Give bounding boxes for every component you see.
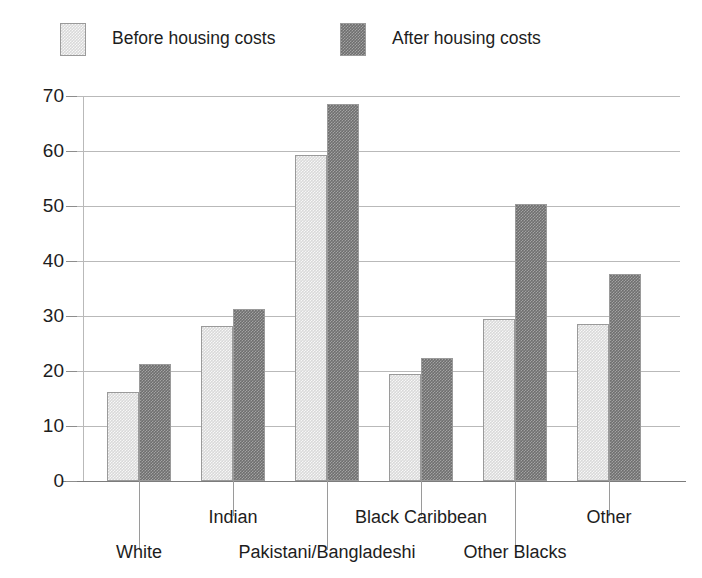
bar-black-caribbean-before-housing-costs — [389, 374, 421, 481]
y-axis-label-40: 40 — [43, 251, 64, 270]
gridline-70 — [76, 96, 680, 97]
x-axis-label-other-blacks: Other Blacks — [463, 543, 566, 561]
gridline-50 — [76, 206, 680, 207]
bar-other-blacks-after-housing-costs — [515, 204, 547, 481]
bar-other-after-housing-costs — [609, 274, 641, 481]
gridline-40 — [76, 261, 680, 262]
bar-other-before-housing-costs — [577, 324, 609, 481]
gridline-60 — [76, 151, 680, 152]
bar-white-after-housing-costs — [139, 364, 171, 481]
x-axis-label-black-caribbean: Black Caribbean — [355, 508, 487, 526]
y-axis-label-10: 10 — [43, 416, 64, 435]
y-axis-label-30: 30 — [43, 306, 64, 325]
y-tick-mark-10 — [66, 426, 77, 427]
y-axis-label-60: 60 — [43, 141, 64, 160]
bar-indian-before-housing-costs — [201, 326, 233, 481]
x-tick-other-blacks — [515, 468, 516, 550]
bar-chart: Before housing costs After housing costs… — [0, 0, 702, 578]
x-axis-label-indian: Indian — [208, 508, 257, 526]
bar-indian-after-housing-costs — [233, 309, 265, 481]
bar-pakistani-bangladeshi-before-housing-costs — [295, 155, 327, 481]
gridline-30 — [76, 316, 680, 317]
y-axis-label-0: 0 — [53, 471, 64, 490]
y-tick-mark-70 — [66, 96, 77, 97]
x-axis-label-white: White — [116, 543, 162, 561]
y-tick-mark-20 — [66, 371, 77, 372]
x-axis-label-other: Other — [586, 508, 631, 526]
plot-area: 70 60 50 40 30 20 10 0 White Indian Paki… — [0, 0, 702, 578]
x-axis-baseline — [62, 481, 686, 482]
y-axis-label-70: 70 — [43, 86, 64, 105]
bar-pakistani-bangladeshi-after-housing-costs — [327, 104, 359, 481]
y-axis-line — [83, 96, 84, 481]
y-axis-label-20: 20 — [43, 361, 64, 380]
y-tick-mark-50 — [66, 206, 77, 207]
bar-other-blacks-before-housing-costs — [483, 319, 515, 481]
y-tick-mark-30 — [66, 316, 77, 317]
bar-black-caribbean-after-housing-costs — [421, 358, 453, 481]
x-axis-label-pakistani-bangladeshi: Pakistani/Bangladeshi — [238, 543, 415, 561]
bar-white-before-housing-costs — [107, 392, 139, 481]
y-tick-mark-40 — [66, 261, 77, 262]
y-tick-mark-0 — [66, 481, 77, 482]
x-tick-white — [139, 468, 140, 550]
y-axis-label-50: 50 — [43, 196, 64, 215]
y-tick-mark-60 — [66, 151, 77, 152]
x-tick-pakistani-bangladeshi — [327, 468, 328, 550]
